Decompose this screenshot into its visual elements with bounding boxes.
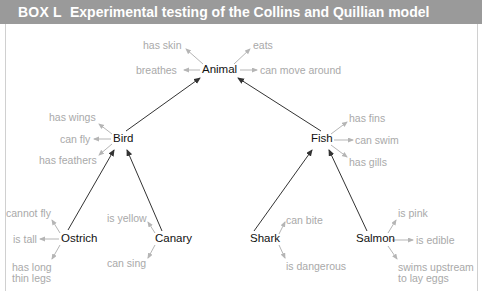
node-bird: Bird [113, 132, 133, 144]
node-canary: Canary [155, 232, 192, 244]
semantic-network-arrows [0, 0, 482, 291]
property-label: has feathers [39, 154, 97, 166]
node-ostrich: Ostrich [61, 232, 97, 244]
node-fish: Fish [311, 132, 333, 144]
property-label: is pink [398, 207, 428, 219]
property-label: to lay eggs [398, 272, 449, 284]
property-label: has gills [349, 156, 387, 168]
property-label: can fly [60, 133, 90, 145]
property-label: cannot fly [6, 207, 51, 219]
property-label: eats [253, 39, 273, 51]
node-shark: Shark [250, 232, 280, 244]
property-label: is edible [416, 234, 455, 246]
property-label: has skin [143, 39, 182, 51]
property-label: has wings [49, 111, 96, 123]
property-label: is tall [13, 233, 37, 245]
property-label: can move around [260, 64, 341, 76]
property-label: thin legs [12, 272, 51, 284]
node-salmon: Salmon [356, 232, 395, 244]
property-label: is dangerous [286, 260, 346, 272]
property-label: can bite [286, 214, 323, 226]
property-label: is yellow [107, 212, 147, 224]
property-label: can sing [107, 257, 146, 269]
property-label: breathes [136, 64, 177, 76]
node-animal: Animal [202, 63, 237, 75]
property-label: has fins [349, 112, 385, 124]
property-label: can swim [355, 134, 399, 146]
